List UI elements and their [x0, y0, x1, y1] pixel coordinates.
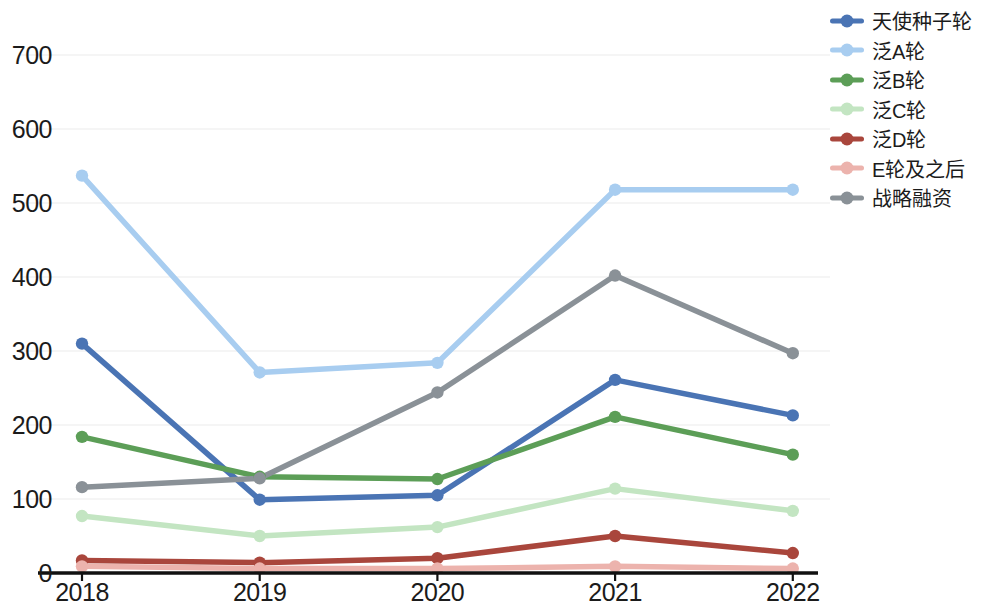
x-axis-tick-label: 2019 — [233, 578, 287, 607]
plot-area: 0100200300400500600700 20182019202020212… — [0, 0, 830, 608]
data-point — [254, 366, 266, 378]
data-point — [431, 473, 443, 485]
legend-label: 泛A轮 — [872, 36, 925, 65]
data-point — [254, 472, 266, 484]
series-line-2 — [82, 417, 793, 479]
line-chart-svg — [0, 0, 830, 608]
y-axis-tick-label: 400 — [12, 263, 52, 292]
data-point — [787, 347, 799, 359]
y-axis-tick-label: 500 — [12, 189, 52, 218]
legend-label: 泛C轮 — [872, 95, 926, 124]
data-point — [787, 547, 799, 559]
data-point — [609, 374, 621, 386]
x-axis-tick-label: 2020 — [411, 578, 465, 607]
legend-dot-swatch — [841, 73, 854, 86]
data-point — [609, 269, 621, 281]
legend-label: 泛D轮 — [872, 124, 926, 153]
data-point — [609, 482, 621, 494]
y-axis-tick-label: 100 — [12, 485, 52, 514]
data-point — [787, 505, 799, 517]
data-point — [609, 560, 621, 572]
legend-item[interactable]: 战略融资 — [830, 183, 986, 213]
legend-label: 天使种子轮 — [872, 6, 972, 35]
legend-label: 战略融资 — [872, 183, 952, 212]
series-line-6 — [82, 276, 793, 488]
y-axis-tick-label: 600 — [12, 115, 52, 144]
data-point — [76, 169, 88, 181]
legend-marker-icon — [830, 191, 864, 205]
legend-label: E轮及之后 — [872, 154, 965, 183]
y-axis-tick-labels: 0100200300400500600700 — [0, 0, 52, 608]
data-point — [431, 386, 443, 398]
legend-item[interactable]: E轮及之后 — [830, 154, 986, 184]
y-axis-tick-label: 700 — [12, 41, 52, 70]
chart-root: 0100200300400500600700 20182019202020212… — [0, 0, 986, 608]
legend-item[interactable]: 泛C轮 — [830, 95, 986, 125]
legend-marker-icon — [830, 161, 864, 175]
legend-marker-icon — [830, 102, 864, 116]
legend-marker-icon — [830, 132, 864, 146]
legend-dot-swatch — [841, 44, 854, 57]
y-axis-tick-label: 0 — [39, 559, 52, 588]
data-point — [609, 530, 621, 542]
legend-item[interactable]: 泛A轮 — [830, 36, 986, 66]
data-point — [76, 510, 88, 522]
legend-marker-icon — [830, 43, 864, 57]
data-point — [431, 357, 443, 369]
legend-item[interactable]: 天使种子轮 — [830, 6, 986, 36]
legend-dot-swatch — [841, 103, 854, 116]
legend-marker-icon — [830, 73, 864, 87]
data-point — [787, 448, 799, 460]
legend-dot-swatch — [841, 162, 854, 175]
chart-legend: 天使种子轮泛A轮泛B轮泛C轮泛D轮E轮及之后战略融资 — [830, 6, 986, 213]
series-line-1 — [82, 176, 793, 373]
data-point — [609, 411, 621, 423]
data-point — [609, 183, 621, 195]
legend-dot-swatch — [841, 191, 854, 204]
data-point — [431, 521, 443, 533]
data-point — [76, 337, 88, 349]
data-point — [787, 409, 799, 421]
legend-label: 泛B轮 — [872, 65, 925, 94]
y-axis-tick-label: 200 — [12, 411, 52, 440]
data-point — [254, 530, 266, 542]
x-axis-tick-label: 2021 — [588, 578, 642, 607]
data-point — [787, 183, 799, 195]
legend-dot-swatch — [841, 14, 854, 27]
data-point — [76, 431, 88, 443]
legend-marker-icon — [830, 14, 864, 28]
data-point — [76, 560, 88, 572]
data-point — [254, 494, 266, 506]
data-point — [431, 489, 443, 501]
y-axis-tick-label: 300 — [12, 337, 52, 366]
legend-item[interactable]: 泛B轮 — [830, 65, 986, 95]
x-axis-tick-label: 2022 — [766, 578, 820, 607]
x-axis-tick-label: 2018 — [55, 578, 109, 607]
data-point — [76, 481, 88, 493]
legend-item[interactable]: 泛D轮 — [830, 124, 986, 154]
legend-dot-swatch — [841, 132, 854, 145]
